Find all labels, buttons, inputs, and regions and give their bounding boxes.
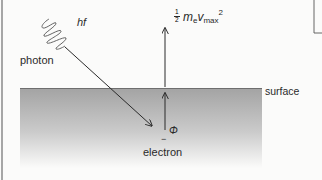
photon-energy-label: hf: [77, 17, 86, 28]
surface-label: surface: [265, 86, 299, 97]
kinetic-energy-expression: mevmax2: [183, 9, 223, 25]
half-fraction: 1 2: [174, 9, 180, 23]
work-function-label: Φ: [169, 125, 178, 136]
electron-charge-symbol: −: [161, 135, 166, 144]
metal-surface: [20, 88, 262, 168]
photon-wave-icon: [42, 19, 66, 49]
photon-label: photon: [20, 55, 54, 66]
electron-label: electron: [143, 147, 182, 158]
photoelectric-diagram: hf photon 1 2 mevmax2 surface Φ − electr…: [0, 0, 322, 180]
corner-bracket: [314, 0, 322, 33]
